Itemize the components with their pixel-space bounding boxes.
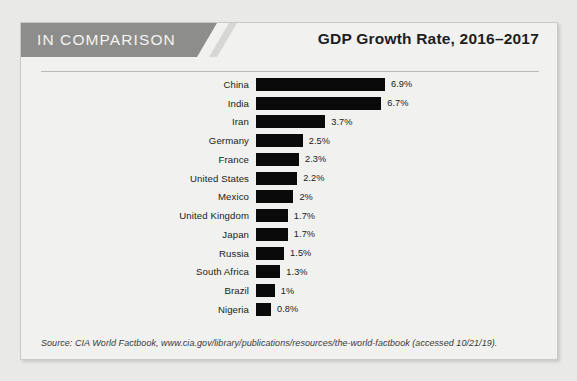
bar-category-label: France: [41, 154, 256, 165]
bar: [256, 153, 299, 166]
bar-category-label: India: [41, 98, 256, 109]
bar: [256, 228, 288, 241]
bar-category-label: South Africa: [41, 266, 256, 277]
bar-category-label: United Kingdom: [41, 210, 256, 221]
bar-track: 2.5%: [256, 131, 539, 150]
bar-track: 1%: [256, 281, 539, 300]
bar-category-label: China: [41, 79, 256, 90]
bar: [256, 247, 284, 260]
bar: [256, 190, 293, 203]
bar: [256, 265, 280, 278]
chart-row: Iran3.7%: [41, 113, 539, 132]
bar-track: 1.3%: [256, 263, 539, 282]
bar-track: 6.9%: [256, 75, 539, 94]
chart-row: Nigeria0.8%: [41, 300, 539, 319]
bar-value-label: 1%: [275, 286, 294, 296]
chart-row: Brazil1%: [41, 281, 539, 300]
bar-value-label: 2.3%: [299, 154, 326, 164]
bar-track: 0.8%: [256, 300, 539, 319]
bar-category-label: Japan: [41, 229, 256, 240]
bar-track: 6.7%: [256, 94, 539, 113]
chart-row: Japan1.7%: [41, 225, 539, 244]
bar-value-label: 6.7%: [381, 98, 408, 108]
bar-value-label: 1.7%: [288, 229, 315, 239]
bar-track: 3.7%: [256, 113, 539, 132]
bar-value-label: 1.3%: [280, 267, 307, 277]
bar-value-label: 2%: [293, 192, 312, 202]
bar-track: 1.7%: [256, 225, 539, 244]
bar-category-label: United States: [41, 173, 256, 184]
section-banner: IN COMPARISON: [21, 23, 217, 57]
chart-row: United States2.2%: [41, 169, 539, 188]
bar-track: 1.7%: [256, 206, 539, 225]
chart-row: India6.7%: [41, 94, 539, 113]
comparison-card: IN COMPARISON GDP Growth Rate, 2016–2017…: [20, 22, 558, 360]
chart-row: France2.3%: [41, 150, 539, 169]
chart-row: Mexico2%: [41, 188, 539, 207]
bar: [256, 134, 303, 147]
bar-category-label: Nigeria: [41, 304, 256, 315]
bar: [256, 284, 275, 297]
bar: [256, 172, 297, 185]
bar-category-label: Brazil: [41, 285, 256, 296]
bar: [256, 78, 385, 91]
chart-row: Germany2.5%: [41, 131, 539, 150]
bar: [256, 115, 325, 128]
header-divider: [41, 71, 539, 72]
chart-row: Russia1.5%: [41, 244, 539, 263]
bar-track: 2.2%: [256, 169, 539, 188]
chart-row: South Africa1.3%: [41, 263, 539, 282]
chart-row: China6.9%: [41, 75, 539, 94]
bar-value-label: 0.8%: [271, 304, 298, 314]
bar: [256, 97, 381, 110]
bar-track: 2%: [256, 188, 539, 207]
bar: [256, 303, 271, 316]
bar-category-label: Iran: [41, 116, 256, 127]
chart-title: GDP Growth Rate, 2016–2017: [318, 30, 539, 48]
bar-value-label: 1.5%: [284, 248, 311, 258]
chart-row: United Kingdom1.7%: [41, 206, 539, 225]
card-header: IN COMPARISON GDP Growth Rate, 2016–2017: [21, 23, 557, 57]
bar-value-label: 2.2%: [297, 173, 324, 183]
bar-category-label: Mexico: [41, 191, 256, 202]
bar-category-label: Germany: [41, 135, 256, 146]
bar-track: 1.5%: [256, 244, 539, 263]
bar-value-label: 3.7%: [325, 117, 352, 127]
bar-category-label: Russia: [41, 248, 256, 259]
bar-value-label: 1.7%: [288, 211, 315, 221]
bar-chart: China6.9%India6.7%Iran3.7%Germany2.5%Fra…: [21, 75, 557, 319]
bar: [256, 209, 288, 222]
bar-value-label: 6.9%: [385, 79, 412, 89]
bar-value-label: 2.5%: [303, 136, 330, 146]
section-banner-label: IN COMPARISON: [21, 31, 176, 49]
source-note: Source: CIA World Factbook, www.cia.gov/…: [41, 338, 543, 348]
bar-track: 2.3%: [256, 150, 539, 169]
